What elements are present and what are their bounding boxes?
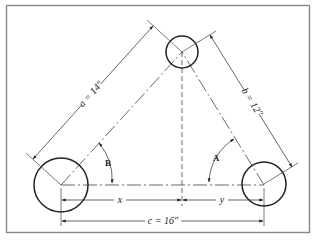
diagram-canvas: a = 14″ b = 12″ x y c = 16″ B A xyxy=(0,0,315,243)
dimension-label-a: a = 14″ xyxy=(76,78,106,109)
triangle-circles-diagram: a = 14″ b = 12″ x y c = 16″ B A xyxy=(0,0,315,243)
dimension-label-y: y xyxy=(219,194,225,205)
center-lines xyxy=(61,52,264,185)
dimension-label-x: x xyxy=(117,194,123,205)
angle-label-a: A xyxy=(213,153,220,163)
circles xyxy=(34,36,286,212)
angle-label-b: B xyxy=(105,158,111,168)
dimension-label-c: c = 16″ xyxy=(148,215,179,226)
extension-lines-b xyxy=(182,31,298,184)
